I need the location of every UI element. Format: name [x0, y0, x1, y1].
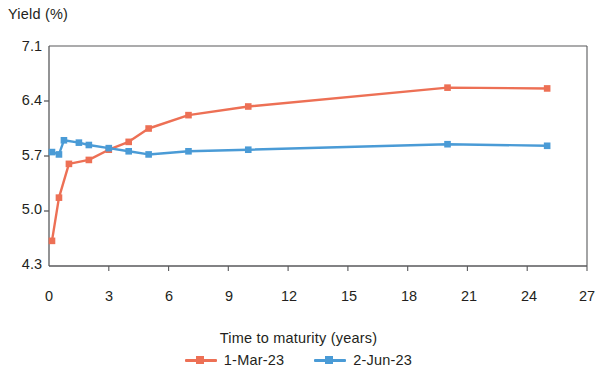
y-axis-ticks: [44, 101, 49, 211]
data-series-layer: [49, 84, 551, 244]
data-point-marker: [245, 146, 252, 153]
data-point-marker: [66, 161, 73, 168]
data-point-marker: [245, 103, 252, 110]
data-point-marker: [125, 139, 132, 146]
data-point-marker: [49, 238, 56, 245]
x-axis-title: Time to maturity (years): [0, 330, 597, 346]
legend-swatch-icon: [314, 354, 346, 366]
data-point-marker: [185, 112, 192, 119]
data-point-marker: [49, 149, 56, 156]
data-point-marker: [185, 148, 192, 155]
data-point-marker: [444, 141, 451, 148]
legend-item-series-2[interactable]: 2-Jun-23: [314, 352, 412, 368]
data-point-marker: [61, 137, 68, 144]
series-line: [52, 88, 547, 241]
axis-frame: [49, 46, 587, 266]
data-point-marker: [145, 125, 152, 132]
data-point-marker: [86, 157, 93, 164]
legend-label: 2-Jun-23: [353, 352, 412, 368]
data-point-marker: [544, 142, 551, 149]
series-2: [49, 137, 551, 158]
data-point-marker: [56, 151, 63, 158]
legend-swatch-icon: [185, 354, 217, 366]
data-point-marker: [105, 145, 112, 152]
data-point-marker: [544, 85, 551, 92]
data-point-marker: [145, 151, 152, 158]
legend: 1-Mar-23 2-Jun-23: [0, 352, 597, 368]
data-point-marker: [76, 139, 83, 146]
series-1: [49, 84, 551, 244]
plot-area: [0, 0, 597, 375]
data-point-marker: [86, 142, 93, 149]
x-axis-ticks: [109, 266, 587, 271]
legend-label: 1-Mar-23: [224, 352, 284, 368]
legend-item-series-1[interactable]: 1-Mar-23: [185, 352, 284, 368]
data-point-marker: [125, 148, 132, 155]
data-point-marker: [444, 84, 451, 91]
yield-curve-chart: Yield (%) 7.1 6.4 5.7 5.0 4.3 0 3 6 9 12…: [0, 0, 597, 375]
data-point-marker: [56, 194, 63, 201]
